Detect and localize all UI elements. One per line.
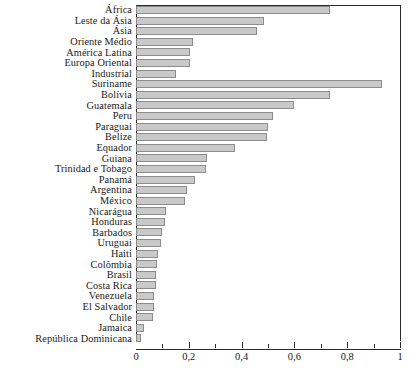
bar-row: Industrial (0, 69, 411, 80)
bar-row: Ásia (0, 26, 411, 37)
x-tick-major (347, 342, 348, 348)
bar-row: Equador (0, 143, 411, 154)
bar-rows: ÁfricaLeste da ÁsiaÁsiaOriente MédioAmér… (0, 5, 411, 341)
bar (136, 133, 267, 141)
x-tick-label: 0,8 (341, 352, 354, 363)
horizontal-bar-chart: ÁfricaLeste da ÁsiaÁsiaOriente MédioAmér… (0, 0, 411, 382)
bar-row: Argentina (0, 185, 411, 196)
x-tick-label: 0,4 (235, 352, 248, 363)
bar-row: Venezuela (0, 291, 411, 302)
x-tick-label: 0 (133, 352, 138, 363)
bar (136, 70, 176, 78)
bar-row: República Dominicana (0, 333, 411, 344)
x-tick-minor (215, 344, 216, 348)
x-tick-major (189, 342, 190, 348)
bar (136, 313, 153, 321)
bar (136, 218, 165, 226)
bar (136, 281, 156, 289)
bar-row: Haiti (0, 249, 411, 260)
bar (136, 112, 273, 120)
bar (136, 239, 161, 247)
x-tick-label: 0,2 (182, 352, 195, 363)
bar (136, 334, 141, 342)
x-tick-minor (374, 344, 375, 348)
x-tick-major (400, 342, 401, 348)
bar (136, 38, 193, 46)
bar (136, 6, 330, 14)
bar-row: El Salvador (0, 302, 411, 313)
bar-row: Uruguai (0, 238, 411, 249)
bar (136, 197, 185, 205)
bar (136, 324, 144, 332)
bar (136, 144, 235, 152)
bar-row: Colômbia (0, 259, 411, 270)
bar (136, 123, 268, 131)
x-tick-label: 1 (397, 352, 402, 363)
bar (136, 27, 257, 35)
bar (136, 101, 294, 109)
x-tick-label: 0,6 (288, 352, 301, 363)
bar-row: Oriente Médio (0, 37, 411, 48)
category-label: República Dominicana (35, 334, 132, 344)
bar-row: Costa Rica (0, 280, 411, 291)
bar-row: Barbados (0, 227, 411, 238)
bar (136, 303, 154, 311)
bar-row: África (0, 5, 411, 16)
bar-row: Honduras (0, 217, 411, 228)
bar-row: América Latina (0, 47, 411, 58)
bar-row: Chile (0, 312, 411, 323)
bar (136, 176, 195, 184)
bar (136, 48, 190, 56)
x-tick-major (294, 342, 295, 348)
bar (136, 292, 154, 300)
bar (136, 186, 187, 194)
bar (136, 228, 162, 236)
bar (136, 250, 158, 258)
bar (136, 91, 330, 99)
bar (136, 271, 156, 279)
bar-row: México (0, 196, 411, 207)
bar-row: Nicarágua (0, 206, 411, 217)
x-tick-major (242, 342, 243, 348)
bar (136, 17, 264, 25)
bar (136, 207, 166, 215)
x-axis-line (136, 349, 401, 350)
bar-row: Suriname (0, 79, 411, 90)
bar-row: Europa Oriental (0, 58, 411, 69)
bar (136, 80, 382, 88)
bar-row: Bolívia (0, 90, 411, 101)
bar-row: Peru (0, 111, 411, 122)
bar-row: Leste da Ásia (0, 16, 411, 27)
bar (136, 165, 206, 173)
bar-row: Panamá (0, 175, 411, 186)
bar-row: Brasil (0, 270, 411, 281)
bar (136, 59, 190, 67)
bar-row: Paraguai (0, 122, 411, 133)
bar-row: Trinidad e Tobago (0, 164, 411, 175)
x-tick-minor (321, 344, 322, 348)
x-tick-minor (162, 344, 163, 348)
x-tick-minor (268, 344, 269, 348)
bar (136, 154, 207, 162)
bar (136, 260, 157, 268)
bar-row: Belize (0, 132, 411, 143)
bar-row: Guatemala (0, 100, 411, 111)
